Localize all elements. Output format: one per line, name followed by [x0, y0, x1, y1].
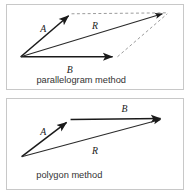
polygon-diagram: A B R polygon method — [7, 99, 183, 189]
vector-b-label: B — [121, 103, 127, 114]
vector-b-arrow — [71, 119, 161, 120]
vector-r-label: R — [91, 145, 98, 156]
polygon-method-panel: A B R polygon method — [6, 98, 184, 190]
dashed-line-top — [72, 13, 168, 14]
parallelogram-method-panel: A B R parallelogram method — [6, 4, 184, 90]
vector-r-label: R — [91, 20, 98, 31]
parallelogram-caption: parallelogram method — [36, 75, 126, 85]
vector-b-label: B — [67, 64, 73, 75]
vector-a-arrow — [21, 16, 69, 57]
vector-a-label: A — [39, 126, 46, 137]
vector-a-label: A — [39, 23, 46, 34]
polygon-caption: polygon method — [36, 170, 102, 180]
vector-addition-figure: A B R parallelogram method A B R polygon… — [0, 0, 191, 195]
parallelogram-diagram: A B R parallelogram method — [7, 5, 183, 89]
